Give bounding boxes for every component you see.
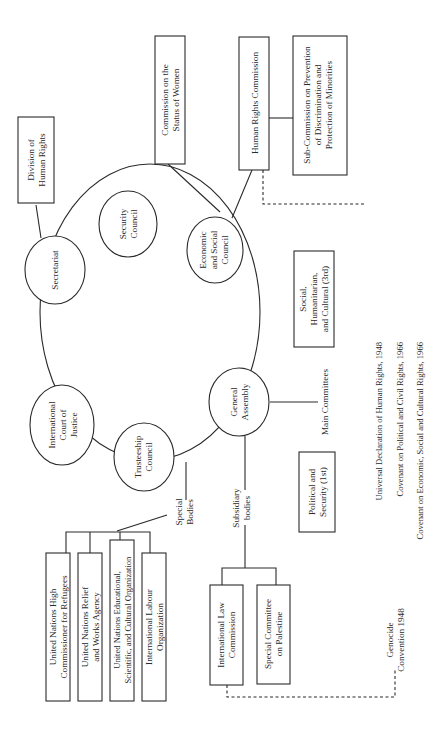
instrument-icescr: Covenant on Economic, Social and Cultura… — [415, 341, 425, 539]
box-division-human-rights[interactable]: Division of Human Rights — [18, 117, 54, 203]
node-icj[interactable]: International Court of Justice — [30, 385, 94, 465]
special-bodies-label-1: Special — [174, 498, 184, 525]
box-unhcr[interactable]: United Nations High Commissioner for Ref… — [46, 553, 70, 701]
subcommission-label-3: Protection of Minorities — [324, 60, 334, 149]
box-unesco[interactable]: United Nations Educational, Scientific, … — [110, 540, 134, 701]
hrc-label: Human Rights Commission — [250, 52, 260, 155]
box-third-committee[interactable]: Social, Humanitarian, and Cultural (3rd) — [294, 251, 334, 347]
first-committee-label-1: Political and — [307, 469, 317, 516]
division-label-2: Human Rights — [37, 133, 47, 187]
unesco-label-2: Scientific, and Cultural Organization — [123, 556, 133, 684]
hr-instruments-list: Universal Declaration of Human Rights, 1… — [374, 341, 425, 539]
security-council-label-1: Security — [118, 208, 128, 239]
node-trusteeship-council[interactable]: Trusteeship Council — [114, 423, 174, 491]
box-first-committee[interactable]: Political and Security (1st) — [299, 452, 335, 532]
node-ecosoc[interactable]: Economic and Social Council — [187, 217, 243, 283]
division-label-1: Division of — [26, 138, 36, 181]
box-unrwa[interactable]: United Nations Relief and Works Agency — [78, 553, 102, 701]
third-committee-label-3: and Cultural (3rd) — [320, 266, 330, 332]
unhcr-label-1: United Nations High — [48, 588, 58, 665]
box-sub-commission[interactable]: Sub-Commission on Prevention of Discrimi… — [293, 36, 347, 175]
main-committees-label: Main Committees — [320, 369, 330, 436]
ecosoc-label-3: Council — [220, 235, 230, 265]
box-ilo[interactable]: International Labour Organization — [142, 553, 166, 701]
trusteeship-label-2: Council — [144, 442, 154, 472]
unrwa-label-1: United Nations Relief — [80, 586, 90, 668]
ilc-label-2: Commission — [227, 611, 237, 658]
scp-label-1: Special Committee — [263, 599, 273, 669]
first-committee-label-2: Security (1st) — [318, 467, 328, 517]
icj-label-3: Justice — [69, 412, 79, 437]
box-special-committee-palestine[interactable]: Special Committee on Palestine — [257, 585, 290, 684]
general-assembly-label-1: General — [229, 387, 239, 417]
instrument-iccpr: Covenant on Political and Civil Rights, … — [395, 341, 405, 496]
node-secretariat[interactable]: Secretariat — [25, 236, 85, 304]
ilo-label-1: International Labour — [144, 589, 154, 665]
subcommission-label-2: of Discrimination and — [313, 64, 323, 145]
node-general-assembly[interactable]: General Assembly — [209, 368, 269, 436]
secretariat-label: Secretariat — [50, 250, 60, 290]
subsidiary-label-1: Subsidiary — [231, 488, 241, 528]
third-committee-label-2: Humanitarian, — [309, 273, 319, 326]
instrument-udhr: Universal Declaration of Human Rights, 1… — [374, 342, 384, 500]
general-assembly-label-2: Assembly — [240, 383, 250, 420]
special-bodies-label-2: Bodies — [185, 499, 195, 525]
ilo-label-2: Organization — [155, 603, 165, 651]
genocide-label-1: Genocide — [385, 622, 395, 657]
un-structure-diagram: Secretariat Security Council Economic an… — [0, 0, 443, 729]
node-security-council[interactable]: Security Council — [99, 191, 157, 257]
security-council-label-2: Council — [129, 209, 139, 239]
unrwa-label-2: and Works Agency — [91, 592, 101, 662]
ecosoc-label-1: Economic — [198, 231, 208, 268]
box-commission-status-women[interactable]: Commission on the Status of Women — [155, 36, 185, 164]
unesco-label-1: United Nations Educational, — [112, 571, 122, 669]
box-human-rights-commission[interactable]: Human Rights Commission — [239, 37, 269, 170]
genocide-label-2: Convention 1948 — [396, 608, 406, 672]
unhcr-label-2: Commissioner for Refugees — [59, 575, 69, 679]
box-international-law-commission[interactable]: International Law Commission — [210, 585, 243, 685]
csw-label-1: Commission on the — [160, 64, 170, 135]
third-committee-label-1: Social, — [298, 286, 308, 311]
ecosoc-label-2: and Social — [209, 230, 219, 269]
icj-label-1: International — [47, 401, 57, 448]
csw-label-2: Status of Women — [171, 68, 181, 131]
ilc-label-1: International Law — [216, 602, 226, 668]
subcommission-label-1: Sub-Commission on Prevention — [302, 46, 312, 164]
icj-label-2: Court of — [58, 409, 68, 441]
subsidiary-label-2: bodies — [242, 496, 252, 520]
scp-label-2: on Palestine — [274, 612, 284, 657]
trusteeship-label-1: Trusteeship — [133, 435, 143, 478]
